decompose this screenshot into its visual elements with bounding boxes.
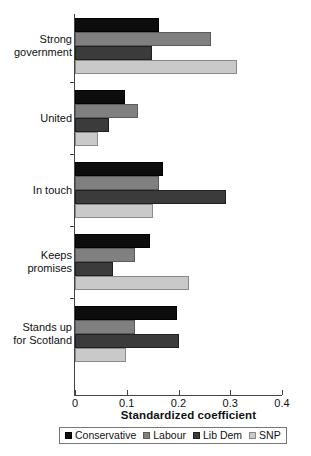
bar <box>75 320 135 334</box>
bar <box>75 32 211 46</box>
x-axis-title: Standardized coefficient <box>0 409 311 421</box>
y-axis-tick <box>70 226 74 227</box>
y-axis-tick <box>70 82 74 83</box>
legend-item: Lib Dem <box>193 430 242 441</box>
x-axis-tick <box>282 390 283 395</box>
legend-label: Labour <box>153 430 186 441</box>
bar <box>75 118 109 132</box>
legend-item: Conservative <box>65 430 136 441</box>
legend-swatch-icon <box>65 432 72 439</box>
legend-item: Labour <box>143 430 186 441</box>
bar <box>75 262 113 276</box>
bar <box>75 176 159 190</box>
x-axis-tick <box>230 390 231 395</box>
chart-legend: ConservativeLabourLib DemSNP <box>59 427 287 444</box>
x-axis-tick-label: 0.2 <box>159 397 199 409</box>
x-axis-tick-label: 0 <box>55 397 95 409</box>
bar <box>75 334 179 348</box>
x-axis-tick <box>179 390 180 395</box>
bar <box>75 306 177 320</box>
category-label: United <box>0 112 72 125</box>
y-axis-tick <box>70 154 74 155</box>
x-axis-tick-label: 0.3 <box>210 397 250 409</box>
bar-chart-figure: Strong governmentUnitedIn touchKeeps pro… <box>0 0 311 456</box>
category-label: In touch <box>0 184 72 197</box>
legend-item: SNP <box>249 430 281 441</box>
bar <box>75 204 153 218</box>
bar <box>75 162 163 176</box>
bar <box>75 104 138 118</box>
category-label: Keeps promises <box>0 249 72 275</box>
bar <box>75 190 226 204</box>
category-label: Stands up for Scotland <box>0 321 72 347</box>
legend-label: Conservative <box>75 430 136 441</box>
bar <box>75 248 135 262</box>
bar <box>75 234 150 248</box>
bar <box>75 60 237 74</box>
x-axis-tick-label: 0.1 <box>107 397 147 409</box>
legend-swatch-icon <box>143 432 150 439</box>
bar <box>75 46 152 60</box>
y-axis-tick <box>70 298 74 299</box>
x-axis-tick-label: 0.4 <box>262 397 302 409</box>
legend-label: SNP <box>259 430 281 441</box>
legend-label: Lib Dem <box>203 430 242 441</box>
x-axis-tick <box>75 390 76 395</box>
x-axis-line <box>74 395 282 396</box>
bar <box>75 132 98 146</box>
bar <box>75 276 189 290</box>
x-axis-tick <box>127 390 128 395</box>
bar <box>75 90 125 104</box>
bar <box>75 348 126 362</box>
bar <box>75 18 159 32</box>
category-label: Strong government <box>0 33 72 59</box>
legend-swatch-icon <box>249 432 256 439</box>
legend-swatch-icon <box>193 432 200 439</box>
